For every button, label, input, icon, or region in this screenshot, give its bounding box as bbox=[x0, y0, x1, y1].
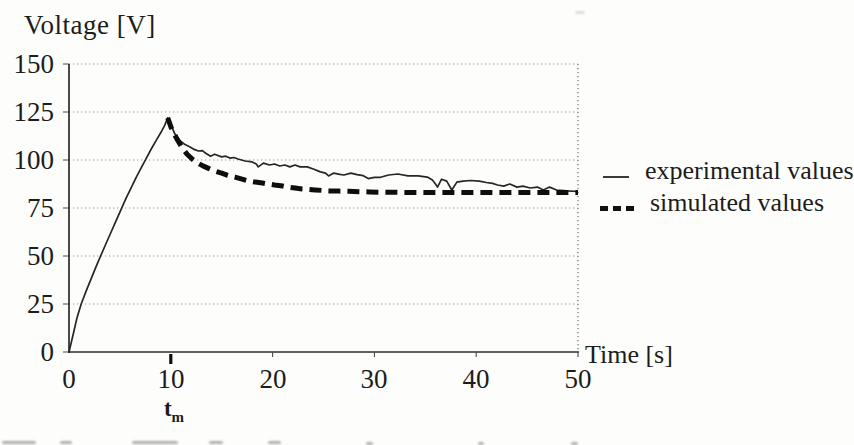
y-tick-label: 25 bbox=[0, 288, 54, 320]
legend: experimental values simulated values bbox=[598, 150, 826, 226]
tm-marker-label: tm bbox=[152, 396, 196, 426]
experimental-line bbox=[69, 118, 578, 352]
x-tick-label: 0 bbox=[38, 364, 100, 394]
y-tick-label: 75 bbox=[0, 192, 54, 224]
y-tick-label: 125 bbox=[0, 96, 54, 128]
y-tick-label: 50 bbox=[0, 240, 54, 272]
legend-item-simulated: simulated values bbox=[598, 188, 826, 226]
legend-item-experimental: experimental values bbox=[598, 150, 826, 188]
solid-line-swatch-icon bbox=[603, 176, 629, 178]
x-axis-title: Time [s] bbox=[585, 340, 673, 370]
simulated-line bbox=[168, 118, 578, 193]
y-tick-label: 100 bbox=[0, 144, 54, 176]
dashed-line-swatch-icon bbox=[600, 206, 637, 211]
legend-label: simulated values bbox=[650, 188, 824, 218]
y-tick-label: 150 bbox=[0, 48, 54, 80]
x-tick-label: 40 bbox=[445, 364, 507, 394]
x-tick-label: 10 bbox=[140, 364, 202, 394]
x-tick-label: 20 bbox=[242, 364, 304, 394]
legend-label: experimental values bbox=[645, 156, 854, 186]
x-tick-label: 30 bbox=[343, 364, 405, 394]
